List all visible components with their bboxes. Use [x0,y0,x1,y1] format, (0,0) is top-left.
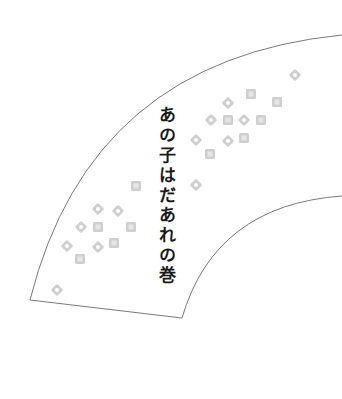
diamond-marker-icon [289,69,302,82]
square-marker-icon [109,238,119,248]
fan-bottom-edge [30,300,182,318]
square-marker-icon [223,115,233,125]
fan-title: あの子はだあれの巻 [152,106,180,286]
square-marker-icon [246,89,256,99]
diamond-marker-icon [61,240,74,253]
square-marker-icon [93,222,103,232]
square-marker-icon [126,222,136,232]
square-marker-icon [239,133,249,143]
diamond-marker-icon [51,284,64,297]
diamond-marker-icon [92,203,105,216]
diamond-marker-icon [112,205,125,218]
square-marker-icon [205,149,215,159]
diamond-marker-icon [205,114,218,127]
square-marker-icon [131,181,141,191]
square-marker-icon [75,254,85,264]
fan-inner-arc [182,196,342,318]
diamond-marker-icon [190,134,203,147]
square-marker-icon [272,97,282,107]
diamond-marker-icon [238,114,251,127]
diamond-marker-icon [190,179,203,192]
square-marker-icon [256,115,266,125]
diamond-marker-icon [222,97,235,110]
diamond-marker-icon [75,221,88,234]
diamond-marker-icon [92,241,105,254]
diamond-marker-icon [222,135,235,148]
